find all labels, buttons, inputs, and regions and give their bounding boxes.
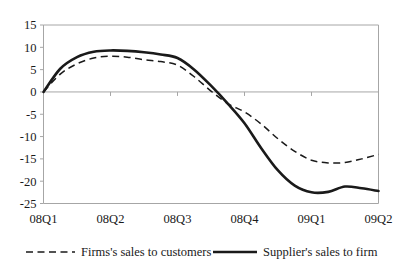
x-axis-tick-label: 08Q3 bbox=[164, 212, 192, 226]
legend-label-firms-sales-to-customers: Firms's sales to customers bbox=[81, 245, 212, 259]
y-axis-tick-label: -10 bbox=[20, 130, 37, 144]
x-axis-tick-label: 09Q2 bbox=[365, 212, 393, 226]
x-axis-tick-labels: 08Q108Q208Q308Q409Q109Q2 bbox=[30, 212, 393, 226]
y-axis-tick-label: -25 bbox=[20, 197, 37, 211]
x-axis-tick-marks bbox=[111, 92, 312, 96]
x-axis-tick-label: 08Q2 bbox=[97, 212, 125, 226]
chart-figure: 151050-5-10-15-20-25 08Q108Q208Q308Q409Q… bbox=[0, 0, 395, 274]
chart-legend: Firms's sales to customers Supplier's sa… bbox=[26, 245, 378, 259]
y-axis-tick-marks bbox=[40, 25, 44, 204]
legend-label-suppliers-sales-to-firm: Supplier's sales to firm bbox=[263, 245, 378, 259]
x-axis-tick-label: 08Q1 bbox=[30, 212, 58, 226]
y-axis-tick-label: -5 bbox=[26, 108, 36, 122]
x-axis-tick-label: 09Q1 bbox=[298, 212, 326, 226]
x-axis-tick-label: 08Q4 bbox=[231, 212, 260, 226]
y-axis-tick-label: -20 bbox=[20, 175, 37, 189]
y-axis-tick-label: 5 bbox=[30, 63, 36, 77]
series-line-firms-sales-to-customers bbox=[44, 56, 379, 163]
y-axis-tick-label: -15 bbox=[20, 152, 37, 166]
y-axis-tick-label: 10 bbox=[24, 41, 37, 55]
y-axis-tick-label: 15 bbox=[24, 18, 37, 32]
series-layer bbox=[44, 50, 379, 193]
y-axis-tick-labels: 151050-5-10-15-20-25 bbox=[20, 18, 37, 211]
series-line-suppliers-sales-to-firm bbox=[44, 50, 379, 193]
line-chart: 151050-5-10-15-20-25 08Q108Q208Q308Q409Q… bbox=[0, 0, 395, 274]
y-axis-tick-label: 0 bbox=[30, 85, 36, 99]
